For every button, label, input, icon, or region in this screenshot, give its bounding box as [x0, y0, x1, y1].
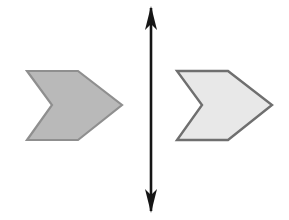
- symmetry-diagram: [0, 0, 289, 220]
- figure-canvas: [0, 0, 289, 220]
